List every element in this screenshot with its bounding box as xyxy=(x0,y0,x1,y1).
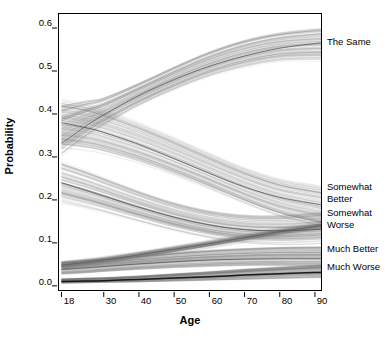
plot-canvas xyxy=(0,0,387,338)
curve-bundles xyxy=(62,29,322,284)
chart-figure: Probability Age 0.6 0.5 0.4 0.3 0.2 0.1 … xyxy=(0,0,387,338)
